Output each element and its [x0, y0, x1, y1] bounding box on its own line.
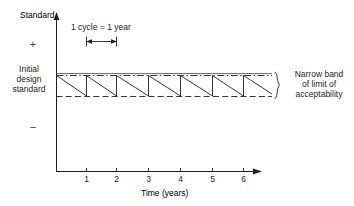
x-tick-label-5: 5: [210, 174, 215, 184]
x-tick-label-3: 3: [146, 174, 151, 184]
x-axis-tick-labels-group: 1 2 3 4 5 6: [84, 174, 246, 184]
x-axis-title: Time (years): [141, 188, 189, 198]
narrow-band-callout-group: Narrow band of limit of acceptability: [275, 69, 344, 99]
initial-design-standard-label: Initial design standard: [12, 64, 45, 94]
initial-design-standard-line-1: Initial: [19, 64, 39, 74]
figure-container: 1 2 3 4 5 6 Standard Time (years) + – In…: [0, 0, 354, 206]
negative-sign-symbol: –: [30, 121, 36, 132]
y-axis-title: Standard: [20, 10, 55, 20]
axes-group: [54, 12, 262, 175]
narrow-band-brace: [275, 72, 280, 98]
sawtooth-deterioration-curve: [57, 76, 273, 97]
cycle-annotation-label: 1 cycle = 1 year: [71, 22, 131, 32]
initial-design-standard-line-3: standard: [12, 84, 45, 94]
x-tick-label-1: 1: [84, 174, 89, 184]
positive-sign-symbol: +: [30, 39, 36, 50]
x-axis-arrowhead: [253, 168, 262, 174]
x-tick-label-2: 2: [114, 174, 119, 184]
standard-deterioration-diagram: 1 2 3 4 5 6 Standard Time (years) + – In…: [0, 0, 354, 206]
narrow-band-label-line-3: acceptability: [296, 89, 344, 99]
initial-design-standard-line-2: design: [16, 74, 41, 84]
cycle-annotation-group: 1 cycle = 1 year: [71, 22, 131, 47]
x-tick-label-4: 4: [178, 174, 183, 184]
narrow-band-label-line-2: of limit of: [302, 79, 337, 89]
x-tick-label-6: 6: [241, 174, 246, 184]
narrow-band-label-line-1: Narrow band: [295, 69, 344, 79]
